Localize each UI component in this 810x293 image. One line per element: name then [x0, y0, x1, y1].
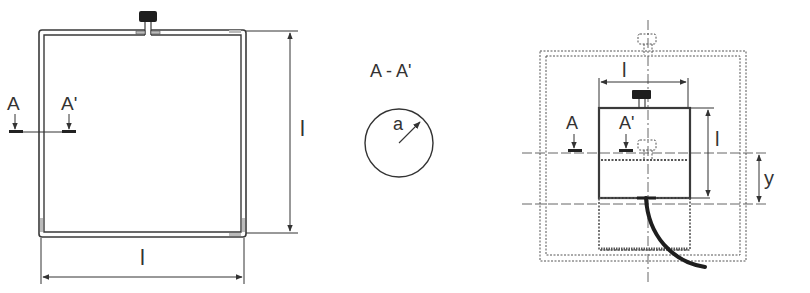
figure-canvas: l l A A' A - A' a — [0, 0, 810, 293]
cross-section-title: A - A' — [370, 61, 411, 81]
loop-outer-edge — [39, 30, 246, 237]
setup-section-label-a-prime: A' — [619, 113, 634, 133]
section-label-a: A — [7, 93, 20, 114]
cross-section-view: A - A' a — [365, 61, 433, 177]
width-dimension-label: l — [140, 245, 145, 270]
cable — [646, 198, 705, 267]
offset-label: y — [764, 167, 774, 189]
setup-height-label: l — [715, 128, 719, 150]
radius-label: a — [393, 114, 404, 134]
loop-inner-edge — [44, 35, 241, 232]
test-setup-view: l l y A A' — [522, 20, 774, 282]
setup-width-label: l — [622, 59, 626, 81]
setup-section-label-a: A — [566, 113, 578, 133]
square-loop-view: l l A A' — [7, 11, 305, 284]
section-label-a-prime: A' — [61, 93, 77, 114]
connector-block — [139, 11, 157, 22]
height-dimension-label: l — [300, 116, 305, 141]
test-loop-connector — [632, 90, 651, 99]
